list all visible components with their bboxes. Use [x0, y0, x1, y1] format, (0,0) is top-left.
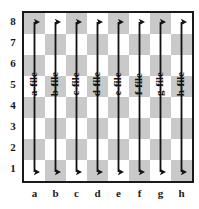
- board-square: [150, 13, 171, 34]
- rank-label-8: 8: [6, 11, 20, 32]
- chess-board: [22, 11, 194, 183]
- board-square: [24, 118, 45, 139]
- board-square: [129, 34, 150, 55]
- board-square: [24, 97, 45, 118]
- board-square: [150, 139, 171, 160]
- board-square: [129, 160, 150, 181]
- rank-label-6: 6: [6, 53, 20, 74]
- board-square: [108, 34, 129, 55]
- rank-label-7: 7: [6, 32, 20, 53]
- board-square: [66, 160, 87, 181]
- board-square: [45, 118, 66, 139]
- board-square: [45, 13, 66, 34]
- board-square: [108, 13, 129, 34]
- board-square: [150, 97, 171, 118]
- board-square: [108, 97, 129, 118]
- file-label-b: b: [45, 186, 66, 200]
- board-square: [45, 34, 66, 55]
- board-square: [45, 160, 66, 181]
- board-square: [150, 34, 171, 55]
- board-square: [66, 13, 87, 34]
- board-square: [45, 139, 66, 160]
- board-square: [171, 139, 192, 160]
- board-square: [171, 13, 192, 34]
- board-square: [24, 139, 45, 160]
- board-square: [24, 34, 45, 55]
- board-square: [171, 118, 192, 139]
- board-squares: [24, 13, 192, 181]
- board-square: [24, 13, 45, 34]
- board-square: [171, 160, 192, 181]
- chess-file-diagram: 8 7 6 5 4 3 2 1 a-file b-file c-file d-f…: [0, 0, 199, 209]
- rank-label-5: 5: [6, 74, 20, 95]
- board-square: [129, 97, 150, 118]
- file-label-g: g: [150, 186, 171, 200]
- board-square: [24, 160, 45, 181]
- board-square: [171, 97, 192, 118]
- board-square: [129, 118, 150, 139]
- board-square: [108, 139, 129, 160]
- board-square: [129, 13, 150, 34]
- file-label-d: d: [87, 186, 108, 200]
- board-square: [66, 139, 87, 160]
- board-square: [66, 34, 87, 55]
- board-square: [108, 118, 129, 139]
- file-label-c: c: [66, 186, 87, 200]
- board-square: [108, 160, 129, 181]
- board-square: [45, 97, 66, 118]
- board-square: [87, 160, 108, 181]
- rank-label-3: 3: [6, 116, 20, 137]
- board-square: [87, 139, 108, 160]
- rank-label-4: 4: [6, 95, 20, 116]
- board-square: [87, 118, 108, 139]
- file-label-e: e: [108, 186, 129, 200]
- board-square: [150, 160, 171, 181]
- board-square: [87, 13, 108, 34]
- board-square: [66, 118, 87, 139]
- rank-label-2: 2: [6, 137, 20, 158]
- file-label-a: a: [24, 186, 45, 200]
- board-square: [66, 97, 87, 118]
- file-label-f: f: [129, 186, 150, 200]
- board-square: [150, 118, 171, 139]
- board-square: [87, 34, 108, 55]
- board-square: [129, 139, 150, 160]
- board-square: [171, 34, 192, 55]
- file-label-h: h: [171, 186, 192, 200]
- board-square: [87, 97, 108, 118]
- rank-label-1: 1: [6, 158, 20, 179]
